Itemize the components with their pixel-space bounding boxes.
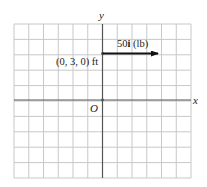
force-magnitude: 50 (117, 38, 128, 49)
x-axis-label: x (192, 94, 198, 106)
force-units: (lb) (130, 38, 148, 50)
force-diagram: y x O 50i (lb) (0, 3, 0) ft (0, 0, 207, 187)
origin-point (101, 99, 104, 102)
origin-label: O (90, 102, 98, 114)
force-label: 50i (lb) (117, 38, 149, 50)
y-axis-label: y (98, 9, 104, 21)
start-point-label: (0, 3, 0) ft (56, 56, 98, 68)
